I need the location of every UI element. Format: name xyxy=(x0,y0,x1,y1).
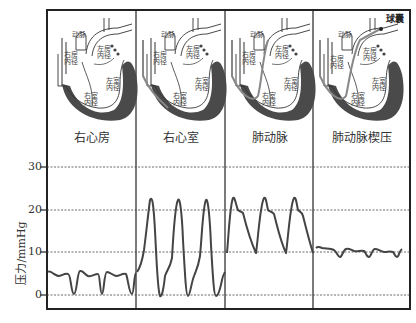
panel-label-right-atrium: 右心房 xyxy=(47,128,136,145)
panel-label-pawp: 肺动脉楔压 xyxy=(313,128,410,145)
figure-canvas xyxy=(0,0,416,323)
heart-label-la: 左房内径 xyxy=(186,46,200,60)
heart-label-ra: 右房内径 xyxy=(330,56,344,70)
heart-label-rv: 右室内径 xyxy=(173,93,187,107)
y-tick-20: 20 xyxy=(24,203,42,216)
heart-label-rv: 右室内径 xyxy=(84,93,98,107)
heart-label-ra: 右房内径 xyxy=(64,52,78,66)
heart-label-la: 左房内径 xyxy=(363,48,377,62)
y-ticks xyxy=(40,167,47,295)
panel-label-right-ventricle: 右心室 xyxy=(136,128,225,145)
heart-label-lv: 左室内径 xyxy=(106,78,120,92)
y-axis-label: 压力/mmHg xyxy=(12,221,28,284)
panel-label-pulmonary-artery: 肺动脉 xyxy=(225,128,314,145)
heart-label-aorta: 动脉 xyxy=(161,32,175,39)
y-tick-30: 30 xyxy=(24,160,42,173)
heart-label-la: 左房内径 xyxy=(97,46,111,60)
heart-label-rv: 右室内径 xyxy=(351,93,365,107)
heart-label-aorta: 动脉 xyxy=(250,32,264,39)
heart-label-rv: 右室内径 xyxy=(262,93,276,107)
balloon-label: 球囊 xyxy=(386,12,404,25)
heart-label-aorta: 动脉 xyxy=(72,32,86,39)
y-tick-0: 0 xyxy=(24,288,42,301)
heart-label-lv: 左室内径 xyxy=(284,78,298,92)
heart-label-ra: 右房内径 xyxy=(153,52,167,66)
heart-label-aorta: 动脉 xyxy=(338,32,352,39)
heart-label-ra: 右房内径 xyxy=(242,52,256,66)
heart-label-la: 左房内径 xyxy=(275,46,289,60)
heart-label-lv: 左室内径 xyxy=(372,78,386,92)
heart-label-lv: 左室内径 xyxy=(195,78,209,92)
balloon-marker xyxy=(379,27,383,31)
